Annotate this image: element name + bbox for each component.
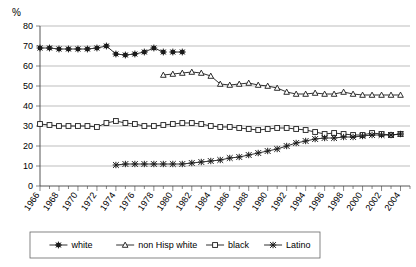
data-point xyxy=(236,154,242,160)
data-point xyxy=(208,124,213,129)
marker-square xyxy=(213,243,218,248)
data-point xyxy=(94,45,101,52)
legend-label: white xyxy=(70,240,92,250)
marker-square xyxy=(95,125,100,130)
data-point xyxy=(256,128,261,133)
data-point xyxy=(66,124,71,129)
data-point xyxy=(340,134,346,140)
marker-square xyxy=(199,122,204,127)
data-point xyxy=(274,146,280,152)
marker-square xyxy=(189,121,194,126)
data-point xyxy=(237,126,242,131)
line-chart: % 01020304050607080 19661968197019721974… xyxy=(0,0,416,267)
data-point xyxy=(293,140,299,146)
marker-square xyxy=(246,127,251,132)
data-point xyxy=(189,121,194,126)
data-point xyxy=(217,157,223,163)
marker-square xyxy=(47,123,52,128)
marker-square xyxy=(123,121,128,126)
marker-square xyxy=(294,127,299,132)
data-point xyxy=(283,143,289,149)
data-point xyxy=(359,133,365,139)
data-point xyxy=(170,122,175,127)
data-point xyxy=(189,160,195,166)
data-point xyxy=(331,135,337,141)
data-point xyxy=(180,121,185,126)
marker-square xyxy=(38,122,43,127)
data-point xyxy=(160,49,167,56)
marker-square xyxy=(170,122,175,127)
marker-square xyxy=(313,130,318,135)
data-point xyxy=(199,122,204,127)
marker-square xyxy=(303,128,308,133)
data-point xyxy=(265,127,270,132)
data-point xyxy=(255,150,261,156)
marker-square xyxy=(151,124,156,129)
marker-square xyxy=(284,126,289,131)
data-point xyxy=(84,46,91,53)
data-point xyxy=(313,130,318,135)
data-point xyxy=(38,122,43,127)
data-point xyxy=(264,148,270,154)
y-tick-label: 80 xyxy=(23,21,33,31)
data-point xyxy=(141,49,148,56)
marker-square xyxy=(66,124,71,129)
data-point xyxy=(46,45,53,52)
data-point xyxy=(85,124,90,129)
legend-marker xyxy=(270,242,276,248)
data-point xyxy=(246,152,252,158)
data-point xyxy=(113,119,118,124)
data-point xyxy=(294,127,299,132)
marker-square xyxy=(275,126,280,131)
data-point xyxy=(95,125,100,130)
marker-square xyxy=(208,124,213,129)
y-tick-label: 0 xyxy=(28,181,33,191)
data-point xyxy=(75,46,82,53)
data-point xyxy=(397,131,403,137)
marker-square xyxy=(237,126,242,131)
data-point xyxy=(227,155,233,161)
data-point xyxy=(57,124,62,129)
y-tick-label: 70 xyxy=(23,41,33,51)
data-point xyxy=(208,158,214,164)
data-point xyxy=(302,138,308,144)
data-point xyxy=(350,134,356,140)
chart-container: % 01020304050607080 19661968197019721974… xyxy=(0,0,416,267)
data-point xyxy=(170,161,176,167)
data-point xyxy=(284,126,289,131)
marker-square xyxy=(104,121,109,126)
data-point xyxy=(227,125,232,130)
data-point xyxy=(160,161,166,167)
y-axis-labels: 01020304050607080 xyxy=(23,21,33,191)
marker-square xyxy=(142,124,147,129)
y-tick-label: 30 xyxy=(23,121,33,131)
data-point xyxy=(179,161,185,167)
y-tick-label: 10 xyxy=(23,161,33,171)
data-point xyxy=(76,124,81,129)
data-point xyxy=(113,162,119,168)
marker-square xyxy=(218,125,223,130)
y-tick-label: 20 xyxy=(23,141,33,151)
marker-square xyxy=(256,128,261,133)
data-point xyxy=(131,51,138,58)
data-point xyxy=(388,132,394,138)
data-point xyxy=(151,161,157,167)
marker-square xyxy=(161,123,166,128)
data-point xyxy=(161,123,166,128)
data-point xyxy=(179,49,186,56)
data-point xyxy=(65,46,72,53)
data-point xyxy=(103,43,110,50)
data-point xyxy=(132,122,137,127)
data-point xyxy=(332,131,337,136)
y-tick-label: 50 xyxy=(23,81,33,91)
data-point xyxy=(112,51,119,58)
marker-square xyxy=(132,122,137,127)
data-point xyxy=(104,121,109,126)
data-point xyxy=(198,159,204,165)
data-point xyxy=(132,161,138,167)
y-axis-unit-label: % xyxy=(12,7,21,18)
data-point xyxy=(141,161,147,167)
data-point xyxy=(378,132,384,138)
data-point xyxy=(312,136,318,142)
data-point xyxy=(122,161,128,167)
